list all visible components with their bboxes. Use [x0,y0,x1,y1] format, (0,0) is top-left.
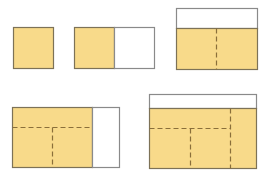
shaded-region [150,109,257,169]
shaded-region [14,28,54,69]
figure-5-grid-with-top-strip [150,95,257,169]
area-model-diagram [0,0,270,178]
shaded-region [75,28,115,69]
unshaded-region [115,28,155,69]
figure-1-single-square [14,28,54,69]
unshaded-region [150,95,257,109]
figure-2-square-plus-white [75,28,155,69]
unshaded-region [93,108,120,168]
figure-4-grid-with-right-strip [13,108,120,168]
unshaded-region [177,9,258,29]
figure-3-two-squares-with-top-strip [177,9,258,70]
